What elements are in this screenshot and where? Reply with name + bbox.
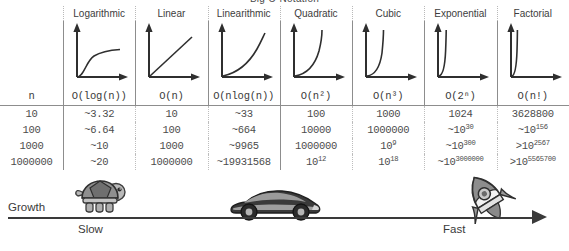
slow-label: Slow — [78, 223, 103, 235]
cell-factorial: ~10156 — [497, 122, 569, 138]
curve-plot-linearithmic — [208, 21, 280, 87]
cell-logarithmic: ~20 — [63, 154, 135, 170]
cell-linear: 1000 — [135, 138, 207, 154]
bigo-linear: O(n) — [135, 87, 207, 105]
column-header-exponential: Exponential — [424, 6, 496, 21]
cell-linear: 100 — [135, 122, 207, 138]
complexity-table: Logarithmic Linear Linearithmic Quadrati… — [0, 6, 569, 170]
plots-spacer — [0, 21, 63, 87]
table-row: 1000~101000~99651000000109~10300>102567 — [0, 138, 569, 154]
cell-logarithmic: ~6.64 — [63, 122, 135, 138]
bigo-quadratic: O(n²) — [280, 87, 352, 105]
column-header-quadratic: Quadratic — [280, 6, 352, 21]
cell-logarithmic: ~10 — [63, 138, 135, 154]
growth-speed-axis: Growth Slow Fast — [0, 182, 569, 251]
curve-plot-exponential — [424, 21, 496, 87]
cell-quadratic: 1000000 — [280, 138, 352, 154]
big-o-notation-figure: Big O Notation Logarithmic Linear Linear… — [0, 0, 569, 251]
cell-linear: 10 — [135, 106, 207, 122]
column-header-linearithmic: Linearithmic — [208, 6, 280, 21]
cell-logarithmic: ~3.32 — [63, 106, 135, 122]
cell-exponential: ~1030 — [424, 122, 496, 138]
column-header-factorial: Factorial — [497, 6, 569, 21]
curve-plot-quadratic — [280, 21, 352, 87]
cell-n: 1000 — [0, 138, 63, 154]
curve-plot-logarithmic — [63, 21, 135, 87]
curve-plot-factorial — [497, 21, 569, 87]
table-row: 10~3.3210~33100100010243628800 — [0, 106, 569, 122]
column-header-linear: Linear — [135, 6, 207, 21]
cell-quadratic: 1012 — [280, 154, 352, 170]
bigo-exponential: O(2ⁿ) — [424, 87, 496, 105]
cell-cubic: 1000 — [352, 106, 424, 122]
growth-label: Growth — [8, 201, 45, 213]
bigo-n-label: n — [0, 87, 63, 105]
bigo-linearithmic: O(nlog(n)) — [208, 87, 280, 105]
table-header-row: Logarithmic Linear Linearithmic Quadrati… — [0, 6, 569, 21]
fast-label: Fast — [443, 223, 465, 235]
turtle-icon — [72, 176, 134, 222]
column-header-logarithmic: Logarithmic — [63, 6, 135, 21]
cell-cubic: 1018 — [352, 154, 424, 170]
table-row: 100~6.64100~664100001000000~1030~10156 — [0, 122, 569, 138]
figure-title: Big O Notation — [0, 0, 569, 4]
cell-exponential: ~103000000 — [424, 154, 496, 170]
header-spacer — [0, 6, 63, 21]
table-body: 10~3.3210~33100100010243628800100~6.6410… — [0, 106, 569, 170]
cell-n: 1000000 — [0, 154, 63, 170]
cell-linearithmic: ~19931568 — [208, 154, 280, 170]
cell-cubic: 109 — [352, 138, 424, 154]
curve-plot-cubic — [352, 21, 424, 87]
bigo-factorial: O(n!) — [497, 87, 569, 105]
bigo-header-row: n O(log(n)) O(n) O(nlog(n)) O(n²) O(n³) … — [0, 87, 569, 106]
table-row: 1000000~201000000~1993156810121018~10300… — [0, 154, 569, 170]
rocket-icon — [450, 172, 524, 228]
cell-cubic: 1000000 — [352, 122, 424, 138]
cell-factorial: 3628800 — [497, 106, 569, 122]
cell-linear: 1000000 — [135, 154, 207, 170]
cell-linearithmic: ~9965 — [208, 138, 280, 154]
bigo-cubic: O(n³) — [352, 87, 424, 105]
axis-line — [8, 217, 534, 219]
bigo-logarithmic: O(log(n)) — [63, 87, 135, 105]
cell-factorial: >105565700 — [497, 154, 569, 170]
axis-arrowhead-icon — [532, 210, 547, 224]
cell-exponential: ~10300 — [424, 138, 496, 154]
curve-plot-linear — [135, 21, 207, 87]
cell-n: 10 — [0, 106, 63, 122]
cell-n: 100 — [0, 122, 63, 138]
cell-linearithmic: ~33 — [208, 106, 280, 122]
car-icon — [228, 184, 324, 226]
cell-exponential: 1024 — [424, 106, 496, 122]
column-header-cubic: Cubic — [352, 6, 424, 21]
cell-quadratic: 10000 — [280, 122, 352, 138]
curve-plots-row — [0, 21, 569, 87]
cell-quadratic: 100 — [280, 106, 352, 122]
cell-linearithmic: ~664 — [208, 122, 280, 138]
cell-factorial: >102567 — [497, 138, 569, 154]
